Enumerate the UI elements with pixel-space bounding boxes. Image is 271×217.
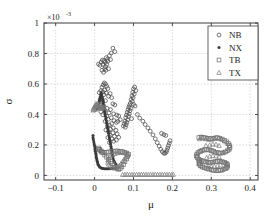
x-tick-label: 0 (92, 183, 97, 193)
y-tick-label: 1 (35, 18, 40, 28)
legend-label: TX (229, 68, 241, 78)
scatter-plot-figure: −0.100.10.20.30.4 00.20.40.60.81 μ σ ×10… (0, 0, 271, 217)
y-tick-label: 0.8 (28, 49, 40, 59)
data-point (113, 50, 117, 54)
series-nb (97, 46, 172, 155)
y-axis-exponent: ×10 (47, 13, 60, 22)
data-point (167, 144, 171, 148)
y-tick-label: 0.2 (28, 140, 39, 150)
data-point (204, 143, 208, 147)
y-tick-label: 0 (35, 171, 40, 181)
x-tick-label: −0.1 (48, 183, 64, 193)
data-point (143, 123, 147, 127)
data-point (113, 135, 117, 139)
legend-label: NX (229, 43, 242, 53)
y-tick-label: 0.4 (28, 110, 40, 120)
x-tick-label: 0.2 (167, 183, 178, 193)
y-tick-labels: 00.20.40.60.81 (28, 18, 40, 180)
plot-canvas: −0.100.10.20.30.4 00.20.40.60.81 μ σ ×10… (0, 0, 271, 217)
x-axis-label: μ (148, 198, 154, 210)
data-point (168, 139, 172, 143)
data-point (153, 137, 157, 141)
data-point (130, 117, 134, 121)
x-tick-label: 0.3 (206, 183, 218, 193)
data-point (105, 84, 109, 88)
data-point (138, 116, 142, 120)
data-point (151, 133, 155, 137)
data-point (110, 96, 114, 100)
legend-label: TB (229, 55, 241, 65)
x-tick-label: 0.1 (128, 183, 139, 193)
y-axis-exponent-power: -3 (66, 11, 71, 17)
x-tick-labels: −0.100.10.20.30.4 (48, 183, 257, 193)
star-icon (218, 46, 221, 49)
y-axis-label: σ (2, 98, 14, 104)
legend[interactable]: NBNXTBTX (208, 26, 258, 80)
x-tick-label: 0.4 (245, 183, 257, 193)
data-point (148, 129, 152, 133)
legend-label: NB (229, 30, 242, 40)
y-tick-label: 0.6 (28, 79, 40, 89)
data-point (166, 146, 170, 150)
data-point (167, 141, 171, 145)
